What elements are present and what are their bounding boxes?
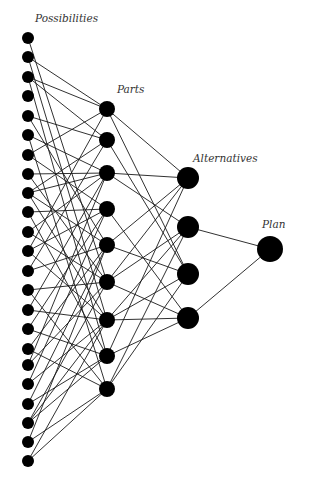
edge-possibility-to-part (28, 209, 107, 384)
alternatives-node (177, 167, 199, 189)
possibilities-node (22, 378, 34, 390)
possibilities-node (22, 359, 34, 371)
edge-part-to-alternative (107, 109, 188, 178)
edge-part-to-alternative (107, 140, 188, 274)
possibilities-node (22, 32, 34, 44)
edge-possibility-to-part (28, 209, 107, 212)
edge-possibility-to-part (28, 135, 107, 173)
possibilities-node (22, 149, 34, 161)
possibilities-node (22, 436, 34, 448)
possibilities-node (22, 265, 34, 277)
alternatives-node (177, 263, 199, 285)
edge-possibility-to-part (28, 349, 107, 389)
edge-possibility-to-part (28, 57, 107, 109)
edge-possibility-to-part (28, 245, 107, 271)
layer-label-possibilities: Possibilities (34, 12, 99, 24)
possibilities-node (22, 51, 34, 63)
edge-possibility-to-part (28, 57, 107, 320)
possibilities-node (22, 110, 34, 122)
edge-possibility-to-part (28, 77, 107, 356)
parts-node (99, 101, 115, 117)
edge-possibility-to-part (28, 389, 107, 461)
possibilities-node (22, 417, 34, 429)
edge-part-to-alternative (107, 274, 188, 320)
parts-node (99, 348, 115, 364)
edge-part-to-alternative (107, 318, 188, 320)
possibilities-node (22, 343, 34, 355)
possibilities-node (22, 90, 34, 102)
alternatives-node (177, 307, 199, 329)
possibilities-node (22, 455, 34, 467)
possibilities-node (22, 168, 34, 180)
edge-possibility-to-part (28, 116, 107, 140)
possibilities-node (22, 304, 34, 316)
parts-node (99, 312, 115, 328)
layered-network-diagram: Possibilities Parts Alternatives Plan (0, 0, 312, 482)
possibilities-node (22, 71, 34, 83)
possibilities-node (22, 206, 34, 218)
possibilities-node (22, 323, 34, 335)
possibilities-node (22, 187, 34, 199)
edge-possibility-to-part (28, 77, 107, 109)
edge-part-to-alternative (107, 318, 188, 356)
edge-part-to-alternative (107, 274, 188, 389)
alternatives-node (177, 216, 199, 238)
edge-possibility-to-part (28, 320, 107, 461)
parts-node (99, 165, 115, 181)
possibilities-node (22, 398, 34, 410)
edge-part-to-alternative (107, 173, 188, 178)
parts-node (99, 274, 115, 290)
parts-node (99, 201, 115, 217)
edge-possibility-to-part (28, 245, 107, 442)
layer-label-parts: Parts (116, 83, 145, 95)
edge-possibility-to-part (28, 173, 107, 310)
edge-part-to-alternative (107, 173, 188, 227)
possibilities-node (22, 226, 34, 238)
parts-node (99, 237, 115, 253)
plan-node (257, 236, 283, 262)
edge-alternative-to-plan (188, 249, 270, 318)
parts-node (99, 381, 115, 397)
edges-group (28, 38, 270, 461)
edge-possibility-to-part (28, 212, 107, 356)
labels-group: Possibilities Parts Alternatives Plan (34, 12, 286, 230)
layer-label-plan: Plan (261, 218, 286, 230)
edge-part-to-alternative (107, 209, 188, 318)
possibilities-node (22, 129, 34, 141)
layer-label-alternatives: Alternatives (192, 152, 258, 164)
possibilities-node (22, 284, 34, 296)
possibilities-node (22, 245, 34, 257)
edge-part-to-alternative (107, 227, 188, 389)
parts-node (99, 132, 115, 148)
network-canvas: Possibilities Parts Alternatives Plan (0, 0, 312, 482)
